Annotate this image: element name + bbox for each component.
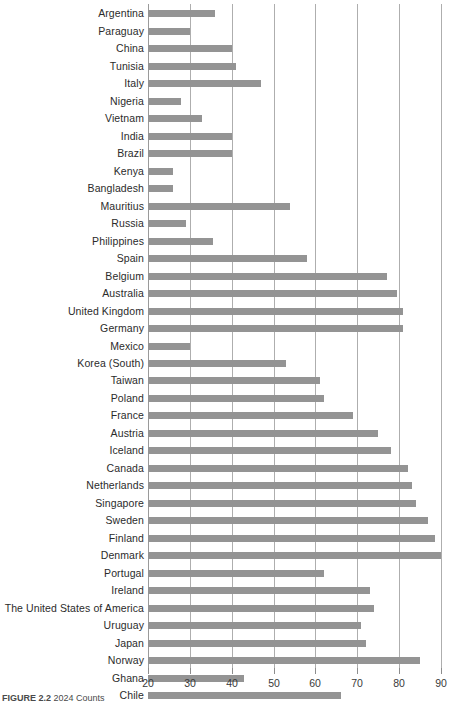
bar — [148, 80, 261, 87]
x-tick-label: 50 — [259, 676, 289, 690]
category-label: Austria — [0, 425, 144, 442]
bar — [148, 308, 403, 315]
x-axis-ticks — [0, 668, 454, 676]
bar-row: Ireland — [0, 582, 454, 599]
category-label: Philippines — [0, 233, 144, 250]
category-label: The United States of America — [0, 600, 144, 617]
x-tick-label: 70 — [342, 676, 372, 690]
x-tick-label: 80 — [384, 676, 414, 690]
category-label: Ireland — [0, 582, 144, 599]
bar — [148, 570, 324, 577]
bar — [148, 587, 370, 594]
x-tick-label: 90 — [426, 676, 454, 690]
bar-row: Poland — [0, 390, 454, 407]
tick-mark-20 — [148, 668, 149, 674]
category-label: Uruguay — [0, 617, 144, 634]
bar — [148, 325, 403, 332]
category-label: Korea (South) — [0, 355, 144, 372]
category-label: Australia — [0, 285, 144, 302]
bar-row: Korea (South) — [0, 355, 454, 372]
bar — [148, 185, 173, 192]
bar — [148, 45, 232, 52]
category-label: Russia — [0, 215, 144, 232]
bar — [148, 552, 441, 559]
bar — [148, 535, 435, 542]
bar-row: China — [0, 40, 454, 57]
bar — [148, 220, 186, 227]
x-tick-label: 60 — [300, 676, 330, 690]
x-tick-label: 30 — [175, 676, 205, 690]
bar — [148, 98, 181, 105]
bar — [148, 465, 408, 472]
bar — [148, 150, 232, 157]
bar-row: Uruguay — [0, 617, 454, 634]
bar — [148, 115, 202, 122]
bar-row: Kenya — [0, 163, 454, 180]
category-label: Denmark — [0, 547, 144, 564]
category-label: Japan — [0, 635, 144, 652]
bar-row: Sweden — [0, 512, 454, 529]
bar-row: Denmark — [0, 547, 454, 564]
category-label: Sweden — [0, 512, 144, 529]
bar-row: Singapore — [0, 495, 454, 512]
bar — [148, 133, 232, 140]
category-label: United Kingdom — [0, 303, 144, 320]
bar-row: Iceland — [0, 442, 454, 459]
category-label: Tunisia — [0, 58, 144, 75]
bar — [148, 290, 397, 297]
category-label: Nigeria — [0, 93, 144, 110]
category-label: France — [0, 407, 144, 424]
bar — [148, 273, 387, 280]
category-label: Mauritius — [0, 198, 144, 215]
bar — [148, 343, 190, 350]
category-label: Poland — [0, 390, 144, 407]
bar-row: Philippines — [0, 233, 454, 250]
category-label: Mexico — [0, 338, 144, 355]
bar — [148, 447, 391, 454]
caption-text: 2024 Counts — [54, 693, 105, 702]
bar — [148, 500, 416, 507]
figure-number: FIGURE 2.2 — [2, 693, 51, 702]
category-label: Canada — [0, 460, 144, 477]
bar — [148, 377, 320, 384]
category-label: Germany — [0, 320, 144, 337]
bar — [148, 640, 366, 647]
category-label: Italy — [0, 75, 144, 92]
bar-chart: ArgentinaParaguayChinaTunisiaItalyNigeri… — [0, 0, 454, 702]
bar — [148, 517, 428, 524]
figure-caption: FIGURE 2.2 2024 Counts — [2, 693, 442, 702]
bar-row: India — [0, 128, 454, 145]
bar — [148, 360, 286, 367]
category-label: Iceland — [0, 442, 144, 459]
bar-row: Netherlands — [0, 477, 454, 494]
x-axis-tick-labels: 2030405060708090 — [0, 676, 454, 692]
bar-row: Japan — [0, 635, 454, 652]
x-tick-label: 40 — [217, 676, 247, 690]
bar-row: Russia — [0, 215, 454, 232]
bar — [148, 395, 324, 402]
bar — [148, 238, 213, 245]
category-label: Argentina — [0, 5, 144, 22]
tick-mark-60 — [315, 668, 316, 674]
bar-row: France — [0, 407, 454, 424]
category-label: Finland — [0, 530, 144, 547]
bar — [148, 430, 378, 437]
bar — [148, 255, 307, 262]
category-label: Netherlands — [0, 477, 144, 494]
category-label: Kenya — [0, 163, 144, 180]
x-tick-label: 20 — [133, 676, 163, 690]
category-label: Bangladesh — [0, 180, 144, 197]
tick-mark-80 — [399, 668, 400, 674]
bar-row: Belgium — [0, 268, 454, 285]
bar-row: Portugal — [0, 565, 454, 582]
category-label: Paraguay — [0, 23, 144, 40]
bar — [148, 203, 290, 210]
bar-row: Vietnam — [0, 110, 454, 127]
bar — [148, 28, 190, 35]
category-label: Vietnam — [0, 110, 144, 127]
bar — [148, 622, 361, 629]
bar-row: The United States of America — [0, 600, 454, 617]
category-label: Taiwan — [0, 372, 144, 389]
tick-mark-90 — [441, 668, 442, 674]
bar-row: Paraguay — [0, 23, 454, 40]
